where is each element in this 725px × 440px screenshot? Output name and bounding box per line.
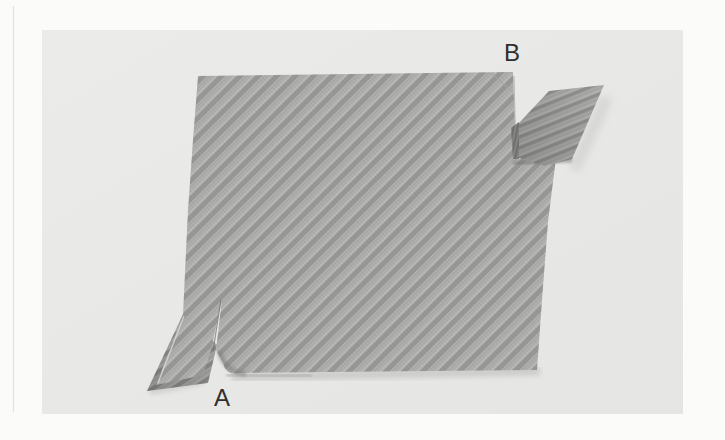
label-b: B [504, 39, 521, 66]
textbook-page: A B [0, 0, 725, 440]
figure-photo: A B [0, 0, 725, 440]
fabric-square [156, 72, 572, 385]
label-a: A [214, 384, 231, 411]
